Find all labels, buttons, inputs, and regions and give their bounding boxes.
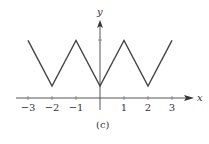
x-tick-label: −1 <box>69 102 84 113</box>
x-tick-label: 2 <box>145 102 151 113</box>
x-tick-label: −3 <box>21 102 36 113</box>
x-axis-label: x <box>197 92 203 103</box>
x-tick-label: 1 <box>121 102 127 113</box>
x-tick-label: −2 <box>45 102 60 113</box>
x-ticks: −3−2−1123 <box>21 96 176 113</box>
caption: (c) <box>96 119 110 130</box>
y-axis-label: y <box>96 6 103 17</box>
chart: x y −3−2−1123 (c) <box>0 0 209 144</box>
x-tick-label: 3 <box>169 102 175 113</box>
